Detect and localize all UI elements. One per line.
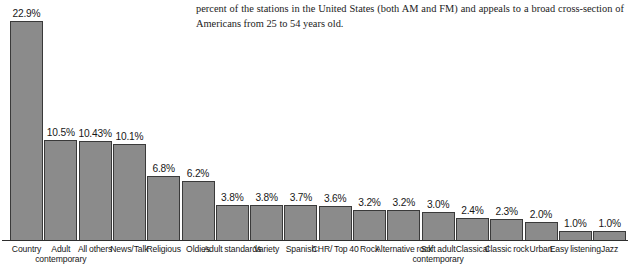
bar-column: 2.0% xyxy=(525,1,558,241)
bar xyxy=(113,144,146,241)
bar-column: 2.4% xyxy=(456,1,489,241)
bar-value-label: 2.4% xyxy=(461,205,483,216)
bar-value-label: 10.1% xyxy=(115,131,143,142)
bar xyxy=(490,219,523,241)
bar-value-label: 6.8% xyxy=(152,163,174,174)
bar-value-label: 3.8% xyxy=(221,192,243,203)
bar-value-label: 22.9% xyxy=(13,8,41,19)
bar xyxy=(353,210,386,241)
bar-value-label: 10.5% xyxy=(47,127,75,138)
radio-format-share-bar-chart: 22.9%10.5%10.43%10.1%6.8%6.2%3.8%3.8%3.7… xyxy=(0,0,630,278)
bar xyxy=(456,218,489,241)
bar xyxy=(216,205,249,241)
bar-column: 10.1% xyxy=(113,1,146,241)
bar-value-label: 2.0% xyxy=(530,209,552,220)
bar-value-label: 3.6% xyxy=(324,193,346,204)
bar-value-label: 1.0% xyxy=(564,218,586,229)
bar-column: 3.8% xyxy=(250,1,283,241)
bar-value-label: 3.2% xyxy=(393,197,415,208)
bar-value-label: 2.3% xyxy=(495,206,517,217)
bar xyxy=(319,206,352,241)
bar xyxy=(79,141,112,241)
bar-column: 10.5% xyxy=(44,1,77,241)
bar xyxy=(284,205,317,241)
bar-value-label: 3.8% xyxy=(255,192,277,203)
bar-column: 3.2% xyxy=(387,1,420,241)
bar-value-label: 1.0% xyxy=(598,218,620,229)
bar-value-label: 3.2% xyxy=(358,197,380,208)
bar-column: 10.43% xyxy=(79,1,112,241)
bar-column: 3.8% xyxy=(216,1,249,241)
bar xyxy=(147,176,180,241)
bar xyxy=(44,140,77,241)
bar-column: 6.8% xyxy=(147,1,180,241)
bar-column: 1.0% xyxy=(593,1,626,241)
bar-column: 3.6% xyxy=(319,1,352,241)
bar-column: 1.0% xyxy=(559,1,592,241)
bar-value-label: 6.2% xyxy=(187,168,209,179)
bar-value-label: 3.7% xyxy=(290,192,312,203)
chart-plot-area: 22.9%10.5%10.43%10.1%6.8%6.2%3.8%3.8%3.7… xyxy=(0,0,630,241)
x-axis-category-label: Jazz xyxy=(580,244,630,254)
bar xyxy=(250,205,283,241)
bar-value-label: 3.0% xyxy=(427,199,449,210)
bar xyxy=(182,181,215,241)
bar-column: 3.0% xyxy=(422,1,455,241)
bar-column: 22.9% xyxy=(10,1,43,241)
bar xyxy=(422,212,455,241)
bar xyxy=(387,210,420,241)
bar-column: 3.7% xyxy=(284,1,317,241)
bar xyxy=(525,222,558,241)
x-axis-line xyxy=(2,240,628,241)
bar-column: 6.2% xyxy=(182,1,215,241)
bar-column: 3.2% xyxy=(353,1,386,241)
bar-value-label: 10.43% xyxy=(78,128,111,139)
bar-column: 2.3% xyxy=(490,1,523,241)
bar xyxy=(10,21,43,241)
